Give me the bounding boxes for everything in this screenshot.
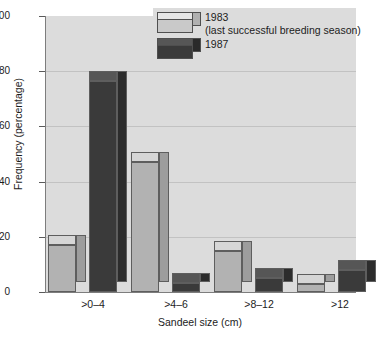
bar-top-face: [172, 273, 200, 283]
bar-front-face: [131, 162, 159, 292]
bar-front-face: [214, 251, 242, 292]
legend-sublabel-1983: (last successful breeding season): [205, 25, 361, 36]
bar-front-face: [89, 81, 117, 292]
x-tick-label-gt12: >12: [300, 298, 380, 310]
y-tick-label-20: 20: [0, 232, 10, 242]
bar-top-face: [89, 71, 117, 81]
light-cube-icon: [157, 12, 201, 33]
y-axis-title: Frequency (percentage): [12, 24, 24, 244]
bar-top-face: [338, 260, 366, 270]
bar-top-face: [48, 235, 76, 245]
y-tick-label-60: 60: [0, 121, 10, 131]
bar-front-face: [48, 245, 76, 292]
bar-side-face: [283, 268, 293, 282]
bar-side-face: [159, 152, 169, 282]
bar-front-face: [255, 278, 283, 292]
legend-label-1987: 1987: [205, 39, 228, 50]
bar-front-face: [338, 270, 366, 292]
bar-side-face: [76, 235, 86, 282]
swatch-front-face: [157, 19, 193, 33]
swatch-side-face: [192, 12, 201, 26]
bar-top-face: [297, 274, 325, 284]
y-tick-label-0: 0: [0, 287, 10, 297]
bar-front-face: [172, 283, 200, 292]
y-tick-label-80: 80: [0, 66, 10, 76]
x-tick-label-gt4-6: >4–6: [136, 298, 216, 310]
y-tick-label-40: 40: [0, 177, 10, 187]
legend: 1983 (last successful breeding season) 1…: [153, 8, 356, 60]
bar-top-face: [255, 268, 283, 278]
plot-area: 1983 (last successful breeding season) 1…: [45, 16, 356, 293]
bar-side-face: [325, 274, 335, 282]
bar-top-face: [131, 152, 159, 162]
bar-side-face: [200, 273, 210, 282]
bar-side-face: [117, 71, 127, 282]
x-tick-label-gt8-12: >8–12: [219, 298, 299, 310]
bar-side-face: [242, 241, 252, 282]
x-tick-label-gt0-4: >0–4: [53, 298, 133, 310]
swatch-front-face: [157, 45, 193, 59]
x-axis-title: Sandeel size (cm): [45, 316, 355, 328]
y-tick-label-100: 100: [0, 11, 10, 21]
swatch-side-face: [192, 38, 201, 52]
dark-cube-icon: [157, 38, 201, 59]
bar-top-face: [214, 241, 242, 251]
bar-front-face: [297, 284, 325, 292]
bar-side-face: [366, 260, 376, 282]
legend-label-1983: 1983: [205, 12, 228, 23]
